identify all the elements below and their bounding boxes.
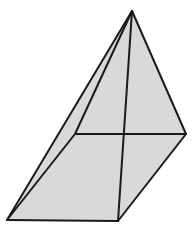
pyramid-figure	[0, 0, 196, 231]
left-to-front-base-edge	[7, 220, 118, 221]
pyramid-svg	[0, 0, 196, 231]
